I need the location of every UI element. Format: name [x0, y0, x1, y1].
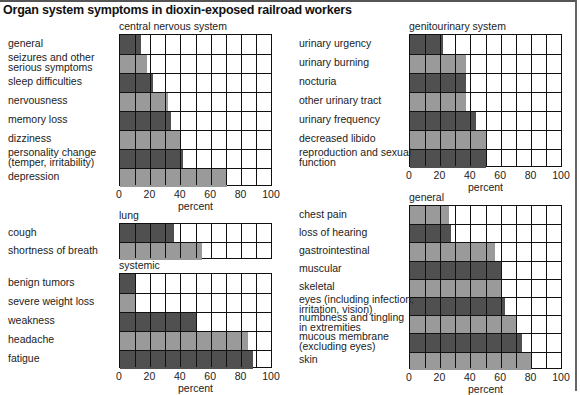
axis-tick: 100: [262, 370, 280, 382]
grid-line: [486, 35, 487, 166]
category-label: nocturia: [299, 76, 336, 86]
category-label: fatigue: [8, 353, 40, 363]
category-label: shortness of breath: [8, 245, 98, 255]
category-label: skeletal: [299, 281, 335, 291]
category-label: personality change(temper, irritability): [8, 147, 96, 167]
axis-tick: 20: [434, 169, 446, 181]
grid-line: [196, 35, 197, 185]
bar: [120, 313, 196, 331]
bar: [120, 332, 248, 350]
grid-line: [455, 206, 456, 368]
grid-line: [150, 224, 151, 258]
grid-line: [546, 35, 547, 166]
axis-tick: 100: [552, 169, 570, 181]
category-label: decreased libido: [299, 133, 375, 143]
bar-grid: [409, 34, 562, 167]
grid-line: [470, 206, 471, 368]
panel-title: systemic: [119, 259, 160, 271]
grid-line: [486, 206, 487, 368]
category-label: chest pain: [299, 209, 347, 219]
grid-line: [256, 274, 257, 367]
grid-line: [135, 35, 136, 185]
panel-title: central nervous system: [119, 20, 227, 32]
grid-line: [226, 224, 227, 258]
axis-tick: 20: [144, 370, 156, 382]
bar: [410, 55, 466, 73]
grid-line: [135, 224, 136, 258]
axis-tick: 40: [174, 188, 186, 200]
axis-label: percent: [468, 181, 503, 193]
category-label: skin: [299, 354, 318, 364]
bar: [120, 243, 202, 260]
axis-tick: 20: [144, 188, 156, 200]
axis-tick: 100: [262, 188, 280, 200]
grid-line: [211, 224, 212, 258]
grid-line: [455, 35, 456, 166]
grid-line: [241, 274, 242, 367]
grid-line: [135, 274, 136, 367]
category-label: memory loss: [8, 114, 68, 124]
bar: [410, 150, 486, 168]
category-label: depression: [8, 171, 59, 181]
grid-line: [196, 224, 197, 258]
category-label: general: [8, 38, 43, 48]
bar: [120, 274, 135, 293]
axis-tick: 80: [235, 370, 247, 382]
category-label: urinary urgency: [299, 38, 371, 48]
bar: [410, 206, 449, 224]
grid-line: [256, 35, 257, 185]
grid-line: [440, 206, 441, 368]
bar-grid: [119, 223, 272, 259]
panel-title: general: [409, 191, 444, 203]
grid-line: [440, 35, 441, 166]
grid-line: [165, 35, 166, 185]
grid-line: [425, 206, 426, 368]
category-label: urinary frequency: [299, 114, 380, 124]
axis-tick: 20: [434, 371, 446, 383]
bar: [410, 74, 466, 92]
category-label: other urinary tract: [299, 95, 381, 105]
grid-line: [165, 274, 166, 367]
figure-title: Organ system symptoms in dioxin-exposed …: [3, 3, 352, 17]
axis-label: percent: [468, 383, 503, 395]
axis-tick: 40: [174, 370, 186, 382]
grid-line: [165, 224, 166, 258]
bar: [120, 294, 135, 312]
grid-line: [211, 274, 212, 367]
panel-title: lung: [119, 209, 139, 221]
grid-line: [241, 224, 242, 258]
grid-line: [150, 35, 151, 185]
category-label: weakness: [8, 315, 55, 325]
category-label: sleep difficulties: [8, 76, 82, 86]
category-label: mucous membrane(excluding eyes): [299, 331, 389, 351]
category-label: dizziness: [8, 133, 51, 143]
category-label: urinary burning: [299, 57, 369, 67]
axis-label: percent: [178, 200, 213, 212]
category-label: seizures and otherserious symptoms: [8, 52, 94, 72]
bar-grid: [119, 34, 272, 186]
bar: [410, 243, 495, 260]
category-label: gastrointestinal: [299, 245, 370, 255]
axis-tick: 0: [406, 169, 412, 181]
axis-tick: 0: [116, 370, 122, 382]
category-label: severe weight loss: [8, 296, 94, 306]
category-label: muscular: [299, 263, 342, 273]
grid-line: [425, 35, 426, 166]
bar-grid: [409, 205, 562, 369]
category-label: benign tumors: [8, 277, 75, 287]
grid-line: [241, 35, 242, 185]
bar: [410, 131, 486, 149]
axis-tick: 60: [204, 188, 216, 200]
axis-label: percent: [178, 382, 213, 394]
bar: [120, 150, 183, 168]
grid-line: [256, 224, 257, 258]
grid-line: [180, 35, 181, 185]
bar: [120, 93, 168, 111]
bar: [410, 93, 466, 111]
grid-line: [546, 206, 547, 368]
bar: [120, 35, 141, 54]
axis-tick: 100: [552, 371, 570, 383]
category-label: nervousness: [8, 95, 68, 105]
category-label: reproduction and sexualfunction: [299, 147, 411, 167]
axis-tick: 80: [235, 188, 247, 200]
